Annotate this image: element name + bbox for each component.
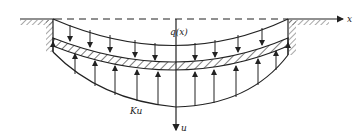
u-axis-label: u bbox=[181, 123, 187, 133]
right-ground-hatching bbox=[288, 19, 329, 55]
beam-on-elastic-foundation-diagram: x u q(x) Ku bbox=[0, 0, 356, 139]
x-axis-label: x bbox=[347, 14, 352, 24]
foundation-reaction-curve bbox=[53, 52, 288, 107]
load-label: q(x) bbox=[170, 27, 188, 37]
beam bbox=[53, 38, 288, 70]
left-ground-hatching bbox=[20, 19, 55, 52]
foundation-reaction-label: Ku bbox=[129, 106, 143, 116]
